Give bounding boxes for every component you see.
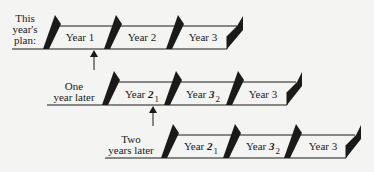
struck-number: 3 xyxy=(269,141,275,152)
row-2-cell-2: Year 32 xyxy=(177,89,229,101)
replacement-number: 1 xyxy=(214,146,219,156)
struck-number: 2 xyxy=(207,141,213,152)
row-2-label: One year later xyxy=(44,81,104,103)
row-1-cell-3: Year 3 xyxy=(178,32,228,43)
row-1-cell-1: Year 1 xyxy=(55,32,105,43)
row-label-line: year later xyxy=(44,92,104,103)
row-2-cell-3: Year 3 xyxy=(238,89,288,100)
struck-number: 3 xyxy=(209,89,215,100)
row-1-cell-2: Year 2 xyxy=(117,32,167,43)
rolling-plan-diagram: This year's plan: Year 1 Year 2 Year 3 O… xyxy=(0,0,374,172)
arrow-up-icon xyxy=(90,50,98,70)
arrow-up-icon xyxy=(149,106,157,126)
row-label-line: years later xyxy=(100,145,162,156)
row-3-cell-1: Year 21 xyxy=(175,141,227,153)
replacement-number: 2 xyxy=(276,146,281,156)
separator-icon xyxy=(287,72,302,105)
replacement-number: 1 xyxy=(155,94,160,104)
row-3-cell-2: Year 32 xyxy=(237,141,289,153)
struck-number: 2 xyxy=(148,89,154,100)
separator-icon xyxy=(227,16,243,49)
row-3-label: Two years later xyxy=(100,134,162,156)
row-1-label: This year's plan: xyxy=(8,13,42,46)
row-3-cell-3: Year 3 xyxy=(298,141,348,152)
row-2-cell-1: Year 21 xyxy=(116,89,168,101)
row-label-line: plan: xyxy=(8,35,42,46)
separator-icon xyxy=(346,125,361,158)
replacement-number: 2 xyxy=(216,94,221,104)
